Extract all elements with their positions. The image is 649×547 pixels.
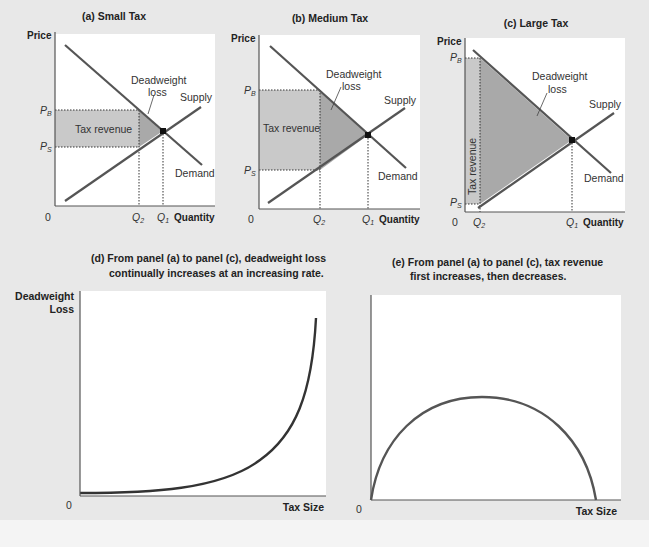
panel-b-pb-label: PB — [244, 84, 256, 97]
panel-e: (e) From panel (a) to panel (c), tax rev… — [356, 256, 621, 517]
panel-a-q2-label: Q2 — [132, 211, 144, 224]
panel-b-dwl-label-2: loss — [342, 80, 361, 92]
panel-d: (d) From panel (a) to panel (c), deadwei… — [15, 252, 326, 513]
panel-e-title-line-1: (e) From panel (a) to panel (c), tax rev… — [392, 256, 603, 268]
panel-b: (b) Medium Tax Price PB PS Tax revenue D… — [231, 12, 420, 226]
panel-d-y-axis-label-1: Deadweight — [15, 290, 74, 302]
panel-c-y-axis-label: Price — [437, 36, 462, 47]
panel-c-x-axis-label: Quantity — [583, 217, 624, 228]
panel-a-supply-label: Supply — [180, 91, 213, 103]
panel-a-origin-label: 0 — [45, 211, 51, 223]
panel-a: (a) Small Tax Price PB PS Tax revenue De… — [27, 10, 215, 224]
panel-d-y-axis-label-2: Loss — [49, 303, 74, 315]
panel-c-dwl-label-2: loss — [548, 83, 567, 95]
panel-b-title: (b) Medium Tax — [292, 12, 368, 24]
panel-a-y-axis-label: Price — [27, 30, 52, 41]
panel-c-supply-label: Supply — [589, 98, 622, 110]
panel-a-dwl-label-2: loss — [148, 86, 167, 98]
panel-d-plot-area — [80, 291, 326, 496]
panel-a-x-axis-label: Quantity — [174, 212, 215, 223]
panel-b-q2-label: Q2 — [313, 213, 325, 226]
panel-c-tax-revenue-label: Tax revenue — [466, 138, 478, 195]
panel-c-demand-label: Demand — [584, 172, 624, 184]
panel-a-ps-label: PS — [40, 140, 52, 153]
panel-e-origin-label: 0 — [356, 503, 362, 515]
panel-c-pb-label: PB — [450, 51, 462, 64]
panel-a-demand-label: Demand — [175, 167, 215, 179]
panel-c-dwl-label-1: Deadweight — [532, 70, 588, 82]
figure: (a) Small Tax Price PB PS Tax revenue De… — [0, 0, 649, 547]
panel-a-title: (a) Small Tax — [82, 10, 146, 22]
panel-d-title-line-1: (d) From panel (a) to panel (c), deadwei… — [91, 252, 326, 264]
panel-a-tax-revenue-label: Tax revenue — [75, 123, 132, 135]
panel-d-origin-label: 0 — [66, 499, 72, 511]
panel-c-equilibrium-point — [569, 137, 575, 143]
panel-b-ps-label: PS — [244, 164, 256, 177]
panel-b-tax-revenue-label: Tax revenue — [263, 122, 320, 134]
panel-a-equilibrium-point — [160, 128, 166, 134]
panel-c-q2-label: Q2 — [473, 216, 485, 229]
panel-b-equilibrium-point — [365, 132, 371, 138]
panel-a-q1-label: Q1 — [157, 211, 169, 224]
panel-c-q1-label: Q1 — [566, 216, 578, 229]
panel-b-x-axis-label: Quantity — [379, 214, 420, 225]
panel-b-supply-label: Supply — [384, 94, 417, 106]
panel-b-q1-label: Q1 — [362, 213, 374, 226]
panel-e-title-line-2: first increases, then decreases. — [410, 270, 567, 282]
panel-d-x-axis-label: Tax Size — [283, 501, 324, 513]
panel-d-title-line-2: continually increases at an increasing r… — [109, 267, 324, 279]
panel-c-title: (c) Large Tax — [504, 17, 569, 29]
panel-a-dwl-label-1: Deadweight — [131, 74, 187, 86]
panel-a-pb-label: PB — [40, 104, 52, 117]
panel-c-origin-label: 0 — [452, 216, 458, 228]
panel-b-origin-label: 0 — [248, 213, 254, 225]
panel-b-y-axis-label: Price — [231, 33, 256, 44]
panel-b-demand-label: Demand — [378, 170, 418, 182]
panel-b-dwl-label-1: Deadweight — [326, 68, 382, 80]
panel-e-x-axis-label: Tax Size — [576, 505, 617, 517]
panel-c: (c) Large Tax Price PB PS Tax revenue De… — [437, 17, 625, 229]
panel-c-ps-label: PS — [450, 196, 462, 209]
